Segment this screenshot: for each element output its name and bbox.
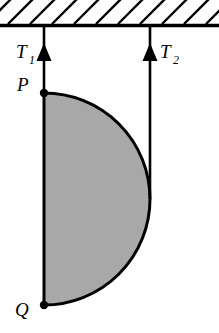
hatch-line [206, 0, 219, 24]
string-left-group [37, 25, 52, 95]
hatch-line [8, 0, 33, 24]
ceiling-hatching [0, 0, 219, 24]
point-q-dot [40, 301, 48, 309]
hatch-line [118, 0, 143, 24]
label-t1-subscript: 1 [29, 53, 35, 67]
hatch-line [140, 0, 165, 24]
diagram-canvas: T 1 T 2 P Q [0, 0, 219, 333]
hatch-line [96, 0, 121, 24]
hatch-line [74, 0, 99, 24]
lamina-group [44, 93, 150, 305]
hatch-line [0, 0, 11, 24]
hatch-line [162, 0, 187, 24]
semicircular-lamina-shape [44, 93, 150, 305]
label-t2-subscript: 2 [173, 53, 179, 67]
ceiling-group [0, 0, 219, 26]
hatch-line [52, 0, 77, 24]
point-p-dot [40, 89, 48, 97]
label-q: Q [15, 299, 29, 320]
label-p: P [16, 74, 29, 95]
label-t1: T [16, 41, 28, 62]
point-p-group [40, 89, 48, 97]
arrow-head-t2 [143, 43, 158, 61]
hatch-line [30, 0, 55, 24]
hatch-line [184, 0, 209, 24]
label-t2: T [160, 41, 172, 62]
arrow-head-t1 [37, 43, 52, 61]
physics-diagram: T 1 T 2 P Q [0, 0, 219, 333]
point-q-group [40, 301, 48, 309]
